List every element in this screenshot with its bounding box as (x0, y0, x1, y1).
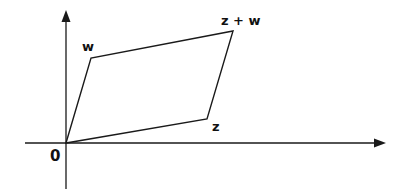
w-label: w (82, 39, 94, 54)
z-plus-w-label: z + w (221, 13, 261, 28)
z-label: z (212, 119, 220, 134)
parallelogram-diagram: 0 w z + w z (0, 0, 402, 189)
origin-label: 0 (50, 147, 60, 165)
y-axis-arrow-icon (62, 10, 71, 22)
x-axis-arrow-icon (374, 139, 386, 148)
